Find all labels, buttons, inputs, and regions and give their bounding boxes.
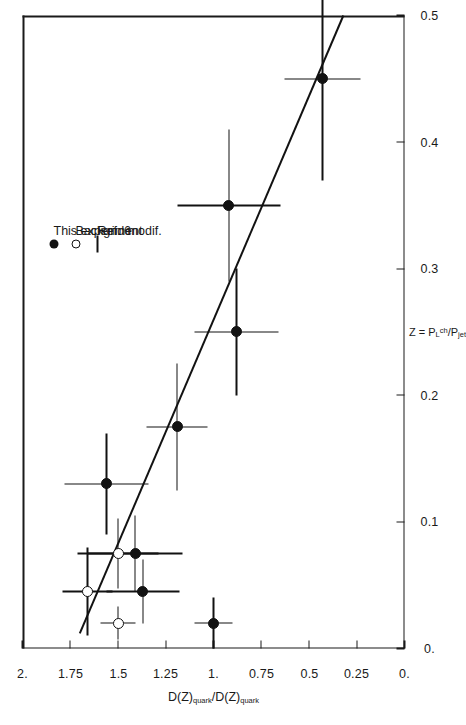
legend-entry-backgnd-modif: Backgnd modif. xyxy=(64,144,86,255)
x-axis-title-sup1: ch xyxy=(439,325,447,334)
x-tick-label: 0.1 xyxy=(420,514,438,528)
data-point xyxy=(223,199,234,210)
data-point xyxy=(230,326,241,337)
x-tick-label: 0. xyxy=(424,641,435,655)
legend-entry-this-experiment: This experiment xyxy=(42,144,64,255)
y-tick-label: 0. xyxy=(387,666,421,680)
data-point xyxy=(171,421,182,432)
y-tick-label: 0.25 xyxy=(339,666,373,680)
data-point xyxy=(316,73,327,84)
x-tick-label: 0.4 xyxy=(420,135,438,149)
y-tick-label: 1.25 xyxy=(148,666,182,680)
x-tick-label: 0.2 xyxy=(420,388,438,402)
x-axis-title: Z = PLch/Pjet xyxy=(408,325,465,339)
y-tick-label: 1.5 xyxy=(101,666,135,680)
y-axis-title-sub1: quark xyxy=(193,695,212,704)
data-point xyxy=(137,586,148,597)
legend-entry-ref-6: Ref. 6 xyxy=(86,144,108,255)
y-axis-title: D(Z)quark/D(Z)quark xyxy=(168,690,259,705)
data-point xyxy=(112,548,123,559)
x-tick-label: 0.3 xyxy=(420,261,438,275)
x-axis-title-slash: /P xyxy=(447,325,457,337)
y-tick-label: 1.75 xyxy=(53,666,87,680)
data-point xyxy=(112,617,123,628)
x-axis-title-sub1: L xyxy=(435,330,439,339)
data-point xyxy=(81,586,92,597)
y-tick-label: 0.75 xyxy=(244,666,278,680)
y-tick-label: 0.5 xyxy=(292,666,326,680)
legend-label: Ref. 6 xyxy=(97,223,130,237)
y-axis-title-lead: D(Z) xyxy=(168,690,193,704)
x-axis-title-sub2: jet xyxy=(458,330,466,339)
x-tick-label: 0.5 xyxy=(420,8,438,22)
y-axis-title-slash: /D(Z) xyxy=(211,690,239,704)
y-tick-label: 2. xyxy=(5,666,39,680)
data-point xyxy=(208,617,219,628)
error-bar-horizontal xyxy=(321,0,323,180)
data-point xyxy=(101,478,112,489)
chart-legend: This experiment Backgnd modif. Ref. 6 xyxy=(42,144,108,255)
data-points-layer xyxy=(22,15,404,648)
y-tick-label: 1. xyxy=(196,666,230,680)
x-axis-title-lead: Z = P xyxy=(408,325,435,337)
y-axis-title-sub2: quark xyxy=(240,695,259,704)
